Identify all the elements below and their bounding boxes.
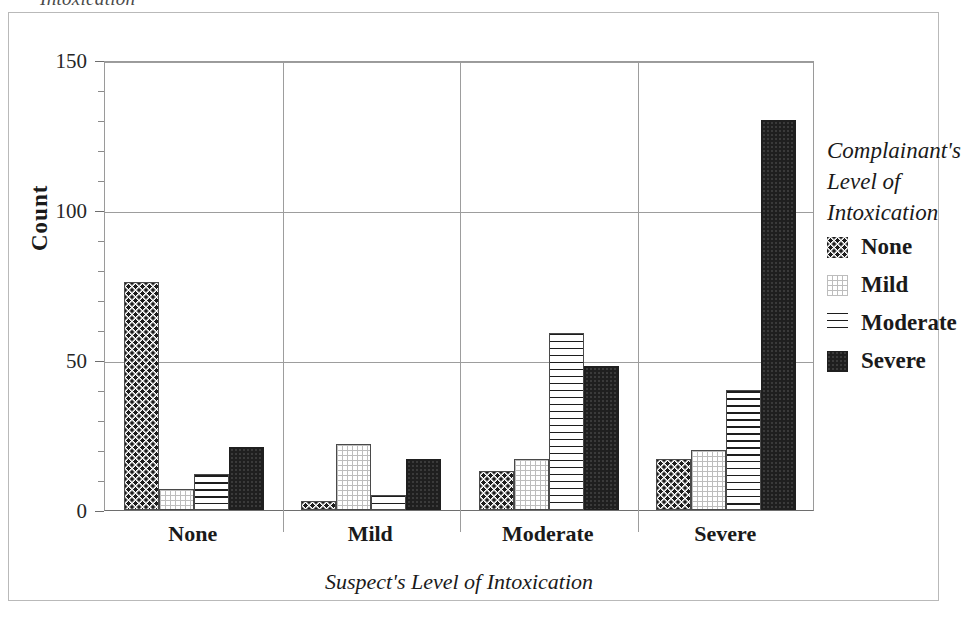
caption-remnant: Intoxication	[40, 0, 135, 10]
y-tick-label: 150	[17, 51, 87, 72]
legend-item-moderate[interactable]: Moderate	[827, 304, 967, 342]
legend-items: NoneMildModerateSevere	[827, 228, 967, 380]
x-group-label-none: None	[104, 521, 282, 547]
bar-moderate-moderate	[549, 333, 584, 510]
legend-swatch-mild-icon	[827, 275, 848, 296]
legend-item-none[interactable]: None	[827, 228, 967, 266]
bar-none-severe	[229, 447, 264, 510]
gridline	[105, 212, 813, 213]
bar-mild-none	[301, 501, 336, 510]
gridline	[105, 62, 813, 63]
chart-legend: Complainant'sLevel ofIntoxication NoneMi…	[827, 135, 967, 380]
y-axis-title: Count	[27, 185, 53, 251]
y-major-tick	[95, 211, 104, 212]
bar-mild-mild	[336, 444, 371, 510]
y-tick-label: 50	[17, 351, 87, 372]
legend-swatch-none-icon	[827, 237, 848, 258]
bar-mild-severe	[406, 459, 441, 510]
legend-swatch-moderate-icon	[827, 313, 848, 334]
bar-none-mild	[159, 489, 194, 510]
group-separator	[283, 62, 284, 532]
legend-item-severe[interactable]: Severe	[827, 342, 967, 380]
bar-severe-severe	[761, 120, 796, 510]
y-major-tick	[95, 511, 104, 512]
legend-item-mild[interactable]: Mild	[827, 266, 967, 304]
x-group-label-moderate: Moderate	[459, 521, 637, 547]
legend-label: Severe	[861, 348, 926, 374]
legend-label: Moderate	[861, 310, 957, 336]
bar-severe-moderate	[726, 390, 761, 510]
bar-severe-none	[656, 459, 691, 510]
x-axis-title: Suspect's Level of Intoxication	[104, 569, 814, 595]
plot-area	[104, 61, 814, 511]
legend-swatch-severe-icon	[827, 351, 848, 372]
legend-title-line-2: Level of	[827, 166, 967, 197]
y-tick-label: 0	[17, 501, 87, 522]
legend-title: Complainant'sLevel ofIntoxication	[827, 135, 967, 228]
figure-frame: 050100150 Count Suspect's Level of Intox…	[8, 12, 939, 601]
gridline	[105, 362, 813, 363]
legend-label: Mild	[861, 272, 908, 298]
bar-none-none	[124, 282, 159, 510]
y-major-tick	[95, 61, 104, 62]
bar-moderate-mild	[514, 459, 549, 510]
group-separator	[638, 62, 639, 532]
bar-severe-mild	[691, 450, 726, 510]
legend-title-line-3: Intoxication	[827, 197, 967, 228]
y-major-tick	[95, 361, 104, 362]
legend-title-line-1: Complainant's	[827, 135, 967, 166]
bar-moderate-severe	[584, 366, 619, 510]
group-separator	[460, 62, 461, 532]
bar-moderate-none	[479, 471, 514, 510]
bar-none-moderate	[194, 474, 229, 510]
x-group-label-mild: Mild	[282, 521, 460, 547]
x-group-label-severe: Severe	[637, 521, 815, 547]
legend-label: None	[861, 234, 912, 260]
bar-mild-moderate	[371, 495, 406, 510]
